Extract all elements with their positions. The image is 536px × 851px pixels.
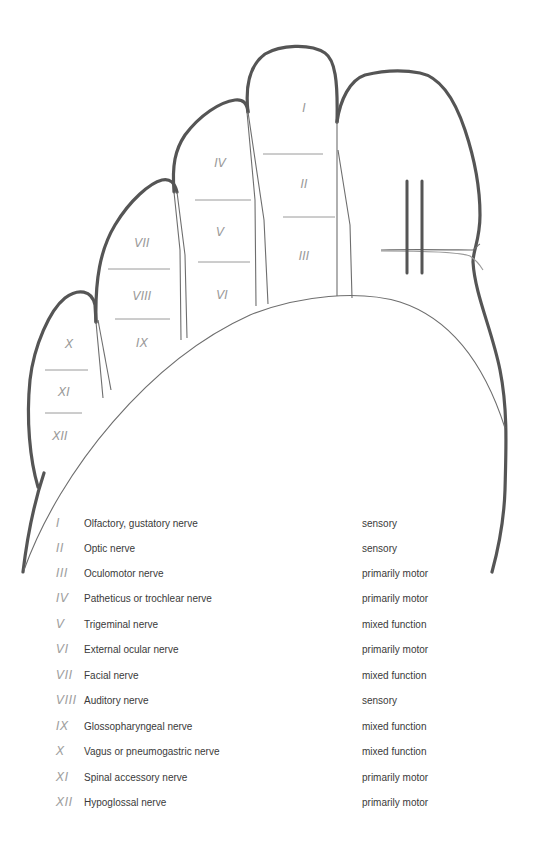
legend-numeral: VIII [56, 693, 77, 707]
legend-row: X Vagus or pneumogastric nerve mixed fun… [0, 744, 536, 764]
legend-nerve-name: Facial nerve [84, 669, 138, 683]
legend-function: primarily motor [362, 643, 428, 657]
legend-function: sensory [362, 542, 397, 556]
hand-inner-lines [24, 112, 505, 570]
numeral-III: III [299, 249, 310, 263]
legend-row: III Oculomotor nerve primarily motor [0, 566, 536, 586]
legend-function: mixed function [362, 720, 426, 734]
legend-function: sensory [362, 517, 397, 531]
legend-row: II Optic nerve sensory [0, 541, 536, 561]
legend-nerve-name: Hypoglossal nerve [84, 796, 166, 810]
numeral-X: X [64, 337, 74, 351]
legend-nerve-name: External ocular nerve [84, 643, 179, 657]
thumb-bars [407, 181, 422, 273]
legend-function: primarily motor [362, 567, 428, 581]
numeral-II: II [300, 177, 308, 191]
legend-nerve-name: Optic nerve [84, 542, 135, 556]
legend-numeral: XII [56, 795, 73, 809]
legend-nerve-name: Vagus or pneumogastric nerve [84, 745, 219, 759]
legend-numeral: IV [56, 591, 69, 605]
legend-function: sensory [362, 694, 397, 708]
legend-row: V Trigeminal nerve mixed function [0, 617, 536, 637]
legend-row: VI External ocular nerve primarily motor [0, 642, 536, 662]
legend-nerve-name: Olfactory, gustatory nerve [84, 517, 198, 531]
segment-dividers [45, 154, 335, 413]
numeral-IV: IV [214, 156, 227, 170]
legend-numeral: III [56, 566, 68, 580]
legend-numeral: IX [56, 719, 69, 733]
legend-row: XI Spinal accessory nerve primarily moto… [0, 770, 536, 790]
legend-row: XII Hypoglossal nerve primarily motor [0, 795, 536, 815]
legend-row: IV Patheticus or trochlear nerve primari… [0, 591, 536, 611]
numeral-VIII: VIII [133, 289, 152, 303]
numeral-XI: XI [57, 385, 70, 399]
legend-function: primarily motor [362, 592, 428, 606]
numeral-VII: VII [134, 236, 150, 250]
numeral-V: V [216, 225, 225, 239]
numeral-VI: VI [216, 288, 228, 302]
numeral-XII: XII [51, 429, 68, 443]
legend-function: mixed function [362, 618, 426, 632]
numeral-IX: IX [136, 336, 149, 350]
legend-function: mixed function [362, 669, 426, 683]
legend-nerve-name: Spinal accessory nerve [84, 771, 187, 785]
legend-nerve-name: Patheticus or trochlear nerve [84, 592, 212, 606]
legend-row: VIII Auditory nerve sensory [0, 693, 536, 713]
legend-numeral: V [56, 617, 65, 631]
legend-row: VII Facial nerve mixed function [0, 668, 536, 688]
legend-numeral: I [56, 516, 60, 530]
legend-nerve-name: Auditory nerve [84, 694, 148, 708]
legend-numeral: XI [56, 770, 69, 784]
numeral-I: I [302, 101, 306, 115]
legend-function: primarily motor [362, 771, 428, 785]
legend-nerve-name: Oculomotor nerve [84, 567, 163, 581]
legend-row: IX Glossopharyngeal nerve mixed function [0, 719, 536, 739]
legend-numeral: VI [56, 642, 69, 656]
legend-numeral: II [56, 541, 64, 555]
legend-row: I Olfactory, gustatory nerve sensory [0, 516, 536, 536]
legend-numeral: X [56, 744, 65, 758]
legend-nerve-name: Glossopharyngeal nerve [84, 720, 192, 734]
legend-nerve-name: Trigeminal nerve [84, 618, 158, 632]
legend-function: primarily motor [362, 796, 428, 810]
legend-numeral: VII [56, 668, 73, 682]
legend-function: mixed function [362, 745, 426, 759]
